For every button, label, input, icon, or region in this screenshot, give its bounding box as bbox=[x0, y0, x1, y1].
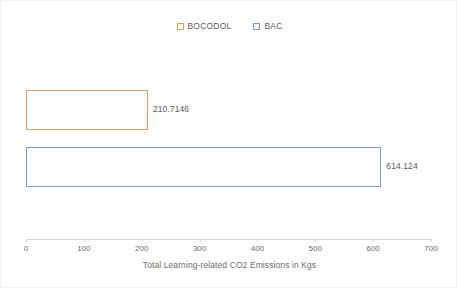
x-axis-tick-mark bbox=[84, 239, 85, 242]
x-axis-tick-mark bbox=[200, 239, 201, 242]
chart-container: BOCODOL BAC 210.7146 614.124 01002003004… bbox=[0, 0, 457, 288]
legend-item-bac[interactable]: BAC bbox=[253, 21, 282, 31]
x-axis-tick-label: 500 bbox=[309, 244, 322, 253]
x-axis-tick-mark bbox=[26, 239, 27, 242]
bar-bocodol[interactable] bbox=[26, 90, 148, 130]
legend-item-label: BOCODOL bbox=[188, 21, 232, 31]
legend-item-label: BAC bbox=[264, 21, 282, 31]
x-axis-tick-mark bbox=[257, 239, 258, 242]
x-axis-tick-label: 600 bbox=[366, 244, 379, 253]
plot-area: 210.7146 614.124 bbox=[26, 56, 431, 239]
x-axis-line bbox=[26, 239, 431, 240]
x-axis-tick-mark bbox=[142, 239, 143, 242]
chart-legend: BOCODOL BAC bbox=[1, 21, 457, 31]
x-axis-tick-label: 200 bbox=[135, 244, 148, 253]
bar-value-label: 614.124 bbox=[386, 161, 417, 171]
x-axis-tick-mark bbox=[373, 239, 374, 242]
legend-square-icon bbox=[177, 23, 184, 30]
legend-square-icon bbox=[253, 23, 260, 30]
x-axis-tick-label: 0 bbox=[24, 244, 28, 253]
bar-bac[interactable] bbox=[26, 147, 381, 187]
x-axis-title: Total Learning-related CO2 Emissions in … bbox=[1, 260, 457, 270]
bar-value-label: 210.7146 bbox=[153, 104, 189, 114]
legend-item-bocodol[interactable]: BOCODOL bbox=[177, 21, 232, 31]
x-axis-tick-label: 300 bbox=[193, 244, 206, 253]
x-axis-tick-mark bbox=[431, 239, 432, 242]
x-axis-tick-label: 700 bbox=[424, 244, 437, 253]
x-axis-tick-mark bbox=[315, 239, 316, 242]
x-axis-tick-label: 400 bbox=[251, 244, 264, 253]
x-axis-tick-label: 100 bbox=[77, 244, 90, 253]
